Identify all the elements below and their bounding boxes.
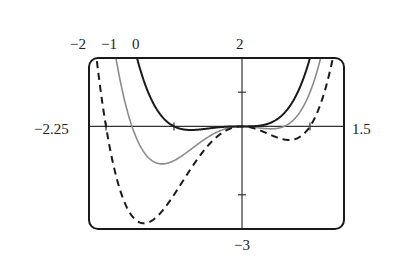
curve-label-c-minus-2: −2: [70, 37, 86, 52]
ymin-label: −3: [234, 238, 250, 253]
axes: [89, 58, 344, 229]
viewing-window-frame: [89, 58, 344, 229]
xmin-label: −2.25: [34, 122, 69, 137]
curve-c-minus-1: [89, 0, 344, 164]
curve-label-c-minus-1: −1: [101, 37, 117, 52]
curve-label-c-0: 0: [132, 37, 140, 52]
xmax-label: 1.5: [352, 122, 371, 137]
ymax-label: 2: [236, 37, 244, 52]
curves: [89, 0, 344, 223]
